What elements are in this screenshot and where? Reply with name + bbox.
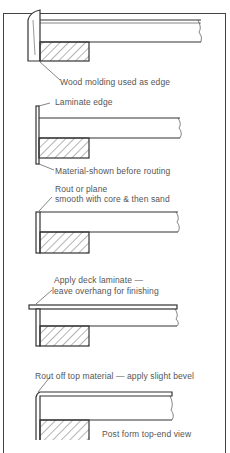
label-smooth-with-core: smooth with core & then sand xyxy=(55,194,170,204)
label-material-before-routing: Material-shown before routing xyxy=(55,166,170,176)
label-leave-overhang: leave overhang for finishing xyxy=(52,286,159,296)
section-laminate-edge xyxy=(36,103,181,170)
label-laminate-edge: Laminate edge xyxy=(55,97,113,107)
label-rout-or-plane: Rout or plane xyxy=(55,184,107,194)
section-wood-molding xyxy=(28,10,202,80)
label-apply-deck-laminate: Apply deck laminate — xyxy=(54,275,143,285)
label-post-form-view: Post form top-end view xyxy=(102,429,191,439)
label-rout-off-top: Rout off top material — apply slight bev… xyxy=(35,371,194,381)
section-deck-laminate xyxy=(29,290,178,346)
section-rout-plane xyxy=(36,197,179,253)
label-wood-molding: Wood molding used as edge xyxy=(60,77,170,87)
